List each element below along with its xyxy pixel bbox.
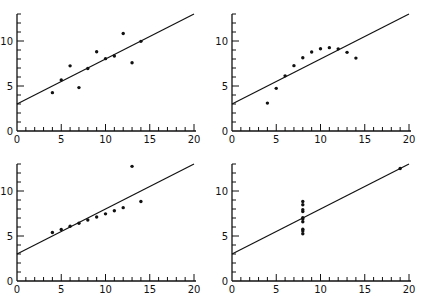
data-point xyxy=(77,222,80,225)
data-point xyxy=(301,200,304,203)
y-tick-label: 10 xyxy=(215,36,228,47)
scatter-panel-1: 051015200510 xyxy=(0,0,215,150)
data-point xyxy=(77,86,80,89)
y-tick-label: 0 xyxy=(222,276,228,287)
data-point xyxy=(86,67,89,70)
data-point xyxy=(301,203,304,206)
x-tick-label: 0 xyxy=(14,134,20,145)
data-points xyxy=(266,46,358,105)
x-tick-label: 15 xyxy=(358,284,371,295)
scatter-plot-svg: 051015200510 xyxy=(215,150,430,299)
y-tick-label: 0 xyxy=(7,126,13,137)
data-point xyxy=(283,74,286,77)
scatter-panel-2: 051015200510 xyxy=(215,0,430,150)
x-tick-label: 15 xyxy=(143,134,156,145)
data-point xyxy=(113,209,116,212)
data-point xyxy=(301,229,304,232)
scatter-panel-4: 051015200510 xyxy=(215,150,430,299)
data-point xyxy=(301,217,304,220)
data-point xyxy=(68,225,71,228)
x-tick-label: 20 xyxy=(403,134,416,145)
data-point xyxy=(139,40,142,43)
scatter-plot-svg: 051015200510 xyxy=(0,0,215,150)
x-tick-label: 5 xyxy=(273,134,279,145)
data-point xyxy=(104,57,107,60)
y-tick-label: 5 xyxy=(222,231,228,242)
x-tick-label: 0 xyxy=(229,134,235,145)
x-tick-label: 10 xyxy=(314,284,327,295)
x-tick-label: 15 xyxy=(143,284,156,295)
x-tick-label: 20 xyxy=(188,284,201,295)
scatter-plot-grid: 051015200510 051015200510 051015200510 0… xyxy=(0,0,430,299)
y-tick-label: 10 xyxy=(0,186,13,197)
data-point xyxy=(130,165,133,168)
data-point xyxy=(60,78,63,81)
data-point xyxy=(113,54,116,57)
x-tick-label: 0 xyxy=(229,284,235,295)
data-point xyxy=(139,200,142,203)
data-point xyxy=(86,218,89,221)
x-tick-label: 5 xyxy=(58,134,64,145)
regression-line xyxy=(17,164,194,254)
data-point xyxy=(122,32,125,35)
x-tick-label: 20 xyxy=(188,134,201,145)
x-tick-label: 20 xyxy=(403,284,416,295)
data-point xyxy=(51,91,54,94)
data-point xyxy=(337,47,340,50)
tick-labels: 051015200510 xyxy=(0,36,200,145)
data-point xyxy=(345,51,348,54)
data-point xyxy=(130,61,133,64)
data-point xyxy=(95,50,98,53)
scatter-plot-svg: 051015200510 xyxy=(0,150,215,299)
y-tick-label: 5 xyxy=(222,81,228,92)
tick-labels: 051015200510 xyxy=(0,186,200,295)
data-point xyxy=(51,231,54,234)
regression-line xyxy=(232,14,409,104)
axes xyxy=(17,14,196,131)
axes xyxy=(232,164,411,281)
y-tick-label: 0 xyxy=(7,276,13,287)
data-point xyxy=(301,208,304,211)
x-tick-label: 5 xyxy=(58,284,64,295)
x-tick-label: 15 xyxy=(358,134,371,145)
data-point xyxy=(60,228,63,231)
data-point xyxy=(292,64,295,67)
tick-labels: 051015200510 xyxy=(215,36,415,145)
y-tick-label: 10 xyxy=(215,186,228,197)
data-points xyxy=(51,165,143,235)
data-point xyxy=(266,101,269,104)
data-point xyxy=(319,47,322,50)
data-point xyxy=(398,167,401,170)
scatter-panel-3: 051015200510 xyxy=(0,150,215,299)
axes xyxy=(17,164,196,281)
x-tick-label: 10 xyxy=(99,134,112,145)
data-point xyxy=(104,212,107,215)
x-tick-label: 5 xyxy=(273,284,279,295)
x-tick-label: 10 xyxy=(99,284,112,295)
y-tick-label: 0 xyxy=(222,126,228,137)
data-point xyxy=(275,87,278,90)
data-points xyxy=(301,167,402,236)
tick-labels: 051015200510 xyxy=(215,186,415,295)
data-point xyxy=(68,64,71,67)
data-point xyxy=(95,215,98,218)
data-point xyxy=(328,46,331,49)
scatter-plot-svg: 051015200510 xyxy=(215,0,430,150)
axes xyxy=(232,14,411,131)
y-tick-label: 5 xyxy=(7,81,13,92)
x-tick-label: 0 xyxy=(14,284,20,295)
y-tick-label: 10 xyxy=(0,36,13,47)
data-point xyxy=(122,206,125,209)
x-tick-label: 10 xyxy=(314,134,327,145)
data-point xyxy=(301,56,304,59)
regression-line xyxy=(232,164,409,254)
data-point xyxy=(310,50,313,53)
data-point xyxy=(354,56,357,59)
y-tick-label: 5 xyxy=(7,231,13,242)
